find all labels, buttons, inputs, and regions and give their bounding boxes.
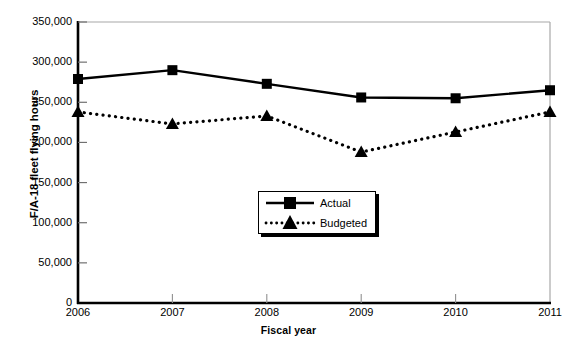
legend-swatch-dotted-triangle-icon <box>264 214 316 232</box>
series-line <box>78 70 550 98</box>
data-point-square-icon <box>545 85 555 95</box>
data-point-square-icon <box>356 92 366 102</box>
data-series-layer <box>72 65 557 157</box>
legend-swatch-solid-square-icon <box>264 194 316 212</box>
series-line <box>78 112 550 152</box>
chart-legend: Actual Budgeted <box>258 191 376 234</box>
legend-label-actual: Actual <box>320 197 351 209</box>
data-point-square-icon <box>73 74 83 84</box>
y-axis-ticks <box>78 22 87 263</box>
chart-figure: F/A-18 fleet flying hours Fiscal year 05… <box>0 0 577 344</box>
legend-item-budgeted: Budgeted <box>259 213 375 233</box>
data-point-triangle-icon <box>260 109 273 121</box>
data-point-square-icon <box>262 79 272 89</box>
data-point-square-icon <box>451 93 461 103</box>
series-actual <box>73 65 555 103</box>
data-point-square-icon <box>167 65 177 75</box>
data-point-triangle-icon <box>72 105 85 117</box>
data-point-triangle-icon <box>544 105 557 117</box>
legend-item-actual: Actual <box>259 193 375 213</box>
plot-area <box>0 0 577 344</box>
x-axis-ticks <box>172 294 455 303</box>
series-budgeted <box>72 105 557 157</box>
legend-label-budgeted: Budgeted <box>320 217 367 229</box>
